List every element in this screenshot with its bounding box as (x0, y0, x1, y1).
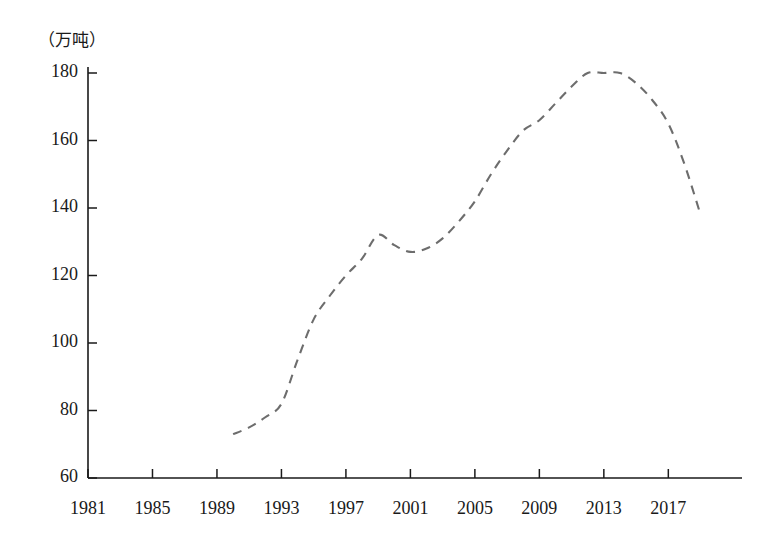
x-tick-label: 2001 (380, 498, 440, 519)
x-tick-label: 2005 (445, 498, 505, 519)
x-tick-label: 1985 (122, 498, 182, 519)
y-tick-label: 160 (32, 129, 78, 150)
x-tick-label: 1997 (316, 498, 376, 519)
y-tick-label: 140 (32, 196, 78, 217)
x-tick-label: 1989 (187, 498, 247, 519)
y-tick-label: 80 (32, 399, 78, 420)
y-tick-label: 180 (32, 61, 78, 82)
x-tick-label: 2009 (509, 498, 569, 519)
chart-tick-marks (88, 73, 668, 478)
y-tick-label: 60 (32, 466, 78, 487)
data-line-series (233, 72, 700, 434)
chart-container: （万吨） 6080100120140160180 198119851989199… (0, 0, 760, 554)
chart-plot-area (0, 0, 760, 554)
chart-axes (88, 67, 742, 478)
y-tick-label: 120 (32, 264, 78, 285)
chart-data-series (233, 72, 700, 434)
x-tick-label: 1993 (251, 498, 311, 519)
x-tick-label: 2017 (638, 498, 698, 519)
x-tick-label: 2013 (574, 498, 634, 519)
y-tick-label: 100 (32, 331, 78, 352)
x-tick-label: 1981 (58, 498, 118, 519)
